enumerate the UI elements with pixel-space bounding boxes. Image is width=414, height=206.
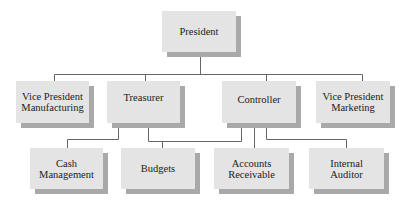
- box-label-line: Controller: [237, 94, 280, 105]
- box-label-line: Auditor: [330, 169, 363, 180]
- box-label: President: [179, 26, 218, 37]
- box-face: Controller: [222, 81, 296, 123]
- box-label-line: Manufacturing: [21, 102, 83, 113]
- connector-treasurer-cash: [68, 127, 119, 148]
- box-face: Vice President Marketing: [316, 81, 390, 123]
- box-label-line: Marketing: [331, 102, 375, 113]
- box-label-line: Accounts: [232, 158, 272, 169]
- connector-controller-auditor: [267, 127, 347, 148]
- box-face: Internal Auditor: [309, 148, 384, 189]
- box-face: Vice President Manufacturing: [16, 81, 89, 123]
- box-label-line: Cash: [56, 158, 77, 169]
- box-face: Accounts Receivable: [214, 148, 289, 189]
- box-face: Cash Management: [30, 148, 103, 189]
- box-face: Budgets: [121, 148, 195, 189]
- box-label-line: Internal: [330, 158, 363, 169]
- box-label-line: Vice President: [22, 91, 83, 102]
- box-label-line: Receivable: [228, 169, 275, 180]
- box-label-line: Vice President: [323, 91, 384, 102]
- box-label-line: Budgets: [141, 163, 175, 174]
- box-label-line: Treasurer: [124, 92, 164, 103]
- box-face: President: [162, 11, 236, 52]
- connector-treasurer-budgets: [149, 127, 242, 142]
- box-label-line: Management: [39, 169, 94, 180]
- box-face: Treasurer: [107, 81, 180, 123]
